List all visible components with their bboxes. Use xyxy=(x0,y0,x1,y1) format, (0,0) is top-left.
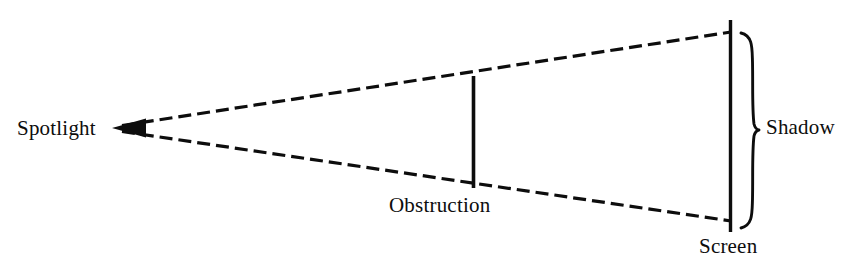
spotlight-arrowhead-icon xyxy=(112,119,146,138)
shadow-diagram-figure: Spotlight Obstruction Shadow Screen xyxy=(0,0,850,274)
upper-light-ray xyxy=(122,32,731,126)
label-obstruction: Obstruction xyxy=(389,195,490,216)
label-screen: Screen xyxy=(699,236,757,257)
label-shadow: Shadow xyxy=(766,117,835,138)
shadow-brace-icon xyxy=(741,33,759,228)
label-spotlight: Spotlight xyxy=(17,118,96,139)
diagram-canvas xyxy=(0,0,850,274)
